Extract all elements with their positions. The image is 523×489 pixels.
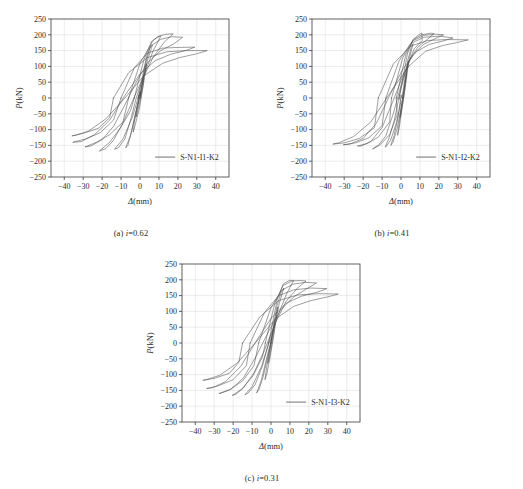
subcaption-b-prefix: (b) [374,228,384,238]
x-tick-label: −40 [319,182,332,191]
hysteresis-curves [72,34,207,151]
y-tick-label: 50 [169,323,177,332]
y-tick-label: 200 [295,31,307,40]
legend: S-N1-I1-K2 [155,153,219,162]
y-tick-label: −200 [160,402,177,411]
x-tick-label: 40 [473,182,481,191]
x-tick-label: 30 [193,182,201,191]
y-tick-label: 200 [165,276,177,285]
legend-label: S-N1-I2-K2 [441,153,480,162]
y-axis-label: P(kN) [275,87,285,109]
y-tick-label: −100 [290,125,307,134]
subcaption-b: (b) i=0.41 [261,228,523,238]
x-tick-label: −30 [77,182,90,191]
subcaption-b-value: =0.41 [389,228,409,238]
chart-svg-b: −40−30−20−10010203040−250−200−150−100−50… [261,0,523,222]
x-tick-label: 30 [454,182,462,191]
hysteresis-loop [99,34,173,151]
hysteresis-loop [219,282,317,393]
x-tick-label: 40 [343,427,351,436]
plot-area-c: −40−30−20−10010203040−250−200−150−100−50… [131,245,393,467]
y-tick-label: 250 [295,15,307,24]
y-tick-label: 250 [165,260,177,269]
axis-ticks: −40−30−20−10010203040−250−200−150−100−50… [29,15,219,191]
y-tick-label: −150 [29,141,46,150]
x-tick-label: 0 [138,182,142,191]
axis-ticks: −40−30−20−10010203040−250−200−150−100−50… [160,260,350,436]
x-tick-label: 10 [155,182,163,191]
y-tick-label: −150 [290,141,307,150]
legend-label: S-N1-I1-K2 [180,153,219,162]
y-tick-label: 150 [165,291,177,300]
x-axis-label: Δ(mm) [258,441,283,451]
x-tick-label: 30 [324,427,332,436]
x-axis-label: Δ(mm) [388,196,413,206]
y-tick-label: 100 [34,62,46,71]
panel-a: −40−30−20−10010203040−250−200−150−100−50… [0,0,262,245]
x-tick-label: −20 [357,182,370,191]
x-tick-label: −20 [227,427,240,436]
hysteresis-loop [114,36,160,149]
legend-label: S-N1-I3-K2 [311,398,350,407]
figure-bottom-caption [0,479,523,488]
y-tick-label: −100 [29,125,46,134]
y-tick-label: 100 [165,307,177,316]
y-tick-label: −200 [29,157,46,166]
x-tick-label: 20 [174,182,182,191]
y-tick-label: 50 [38,78,46,87]
y-tick-label: −100 [160,370,177,379]
y-tick-label: 100 [295,62,307,71]
chart-svg-c: −40−30−20−10010203040−250−200−150−100−50… [131,245,393,467]
plot-area-b: −40−30−20−10010203040−250−200−150−100−50… [261,0,523,222]
x-tick-label: −30 [208,427,221,436]
y-tick-label: −200 [290,157,307,166]
x-tick-label: −20 [96,182,109,191]
x-tick-label: 10 [286,427,294,436]
y-tick-label: 0 [303,94,307,103]
x-tick-label: −10 [246,427,259,436]
y-tick-label: −50 [33,110,46,119]
y-tick-label: 150 [295,46,307,55]
hysteresis-figure: −40−30−20−10010203040−250−200−150−100−50… [0,0,523,489]
x-tick-label: −10 [115,182,128,191]
panel-c: −40−30−20−10010203040−250−200−150−100−50… [131,245,393,489]
hysteresis-loop [257,288,284,393]
hysteresis-curves [203,280,338,395]
x-tick-label: 10 [416,182,424,191]
subcaption-a: (a) i=0.62 [0,228,262,238]
y-tick-label: −50 [294,110,307,119]
y-tick-label: 50 [299,78,307,87]
subcaption-a-prefix: (a) [114,228,124,238]
x-tick-label: 20 [305,427,313,436]
y-tick-label: 250 [34,15,46,24]
x-tick-label: −40 [58,182,71,191]
legend: S-N1-I2-K2 [416,153,480,162]
x-tick-label: −10 [376,182,389,191]
chart-svg-a: −40−30−20−10010203040−250−200−150−100−50… [0,0,262,222]
y-tick-label: −250 [29,173,46,182]
y-axis-label: P(kN) [145,332,155,354]
y-tick-label: 0 [42,94,46,103]
x-tick-label: −40 [189,427,202,436]
axis-ticks: −40−30−20−10010203040−250−200−150−100−50… [290,15,480,191]
y-tick-label: −50 [164,355,177,364]
x-tick-label: 20 [435,182,443,191]
y-axis-label: P(kN) [14,87,24,109]
subcaption-a-value: =0.62 [128,228,148,238]
legend: S-N1-I3-K2 [286,398,350,407]
x-tick-label: −30 [338,182,351,191]
y-tick-label: 150 [34,46,46,55]
y-tick-label: 200 [34,31,46,40]
x-tick-label: 40 [212,182,220,191]
panel-b: −40−30−20−10010203040−250−200−150−100−50… [261,0,523,245]
y-tick-label: −250 [160,418,177,427]
x-tick-label: 0 [399,182,403,191]
y-tick-label: −150 [160,386,177,395]
x-tick-label: 0 [269,427,273,436]
y-tick-label: 0 [173,339,177,348]
x-axis-label: Δ(mm) [127,196,152,206]
y-tick-label: −250 [290,173,307,182]
hysteresis-curves [333,33,468,149]
plot-area-a: −40−30−20−10010203040−250−200−150−100−50… [0,0,262,222]
